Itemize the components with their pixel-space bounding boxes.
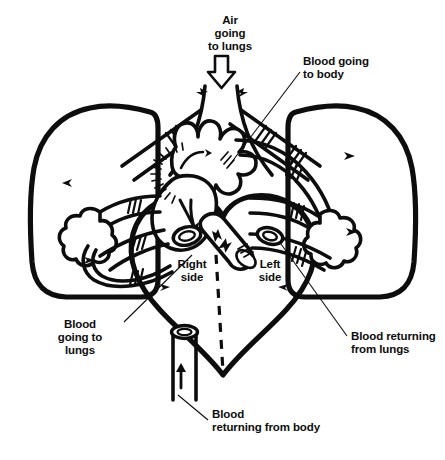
label-line: Right [178,258,207,270]
label-line: to lungs [208,40,252,52]
label-line: side [259,271,282,283]
label-line: going to [58,331,103,343]
label-blood-going-to-lungs: Blood going to lungs [58,318,103,356]
label-line: Blood going [303,55,369,67]
label-line: Left [260,258,281,270]
label-blood-going-to-body: Blood going to body [303,55,369,80]
label-blood-returning-from-body: Blood returning from body [212,408,321,433]
label-right-side: Right side [178,258,207,283]
label-air-going-to-lungs: Air going to lungs [208,14,252,52]
label-line: side [181,271,204,283]
vena-cava [172,326,198,401]
label-blood-returning-from-lungs: Blood returning from lungs [351,330,436,355]
label-line: Blood [212,408,244,420]
label-line: from lungs [351,343,409,355]
flow-arrow-left-lung [62,179,72,187]
vena-cava-up-arrow [176,363,186,372]
label-line: lungs [65,344,95,356]
leader-blood-from-body [178,395,208,420]
right-lung [288,106,416,297]
label-line: returning from body [212,421,321,433]
label-line: Blood returning [351,330,436,342]
pulmonary-trunk-stub [200,214,259,272]
label-left-side: Left side [259,258,282,283]
label-line: to body [303,68,345,80]
label-line: going [215,27,246,39]
label-line: Air [222,14,238,26]
flow-arrow-right-lung [344,152,355,160]
air-inflow-hollow-down-arrow [208,56,235,88]
anatomy-diagram: Air going to lungs Blood going to body R… [0,0,445,460]
heart-lungs-figure: Air going to lungs Blood going to body R… [0,0,445,460]
pulmonary-artery-left [59,196,160,266]
heart-inlet-left [255,225,284,248]
heart-midline-divider [215,238,223,372]
label-line: Blood [64,318,96,330]
